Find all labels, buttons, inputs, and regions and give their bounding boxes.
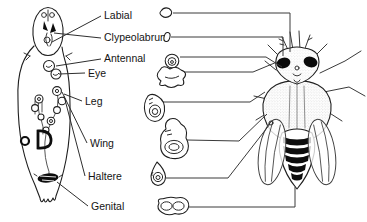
connector-clypeolabrum (171, 37, 283, 56)
label-eye: Eye (88, 67, 106, 79)
label-labial: Labial (104, 9, 132, 21)
eye-antennal-disc-icon (157, 54, 185, 87)
genital-disc-icon (158, 197, 189, 215)
label-antennal: Antennal (104, 52, 145, 64)
connector-eye (183, 62, 277, 72)
label-clypeolabrum: Clypeolabrum (104, 31, 169, 43)
haltere-disc-icon (151, 162, 166, 186)
label-wing: Wing (90, 137, 114, 149)
imaginal-disc-figure: Labial Clypeolabrum Antennal Eye Leg Win… (0, 0, 367, 222)
figure-canvas: Labial Clypeolabrum Antennal Eye Leg Win… (0, 0, 367, 222)
adult-fly-illustration (254, 31, 365, 189)
connector-genital (189, 187, 295, 207)
label-haltere: Haltere (88, 170, 122, 182)
leg-disc-icon (144, 94, 164, 121)
label-leg: Leg (85, 95, 103, 107)
label-genital: Genital (91, 200, 124, 212)
connector-leg (163, 92, 265, 102)
connector-labial (173, 13, 290, 52)
leader-genital (57, 182, 88, 206)
wing-disc-icon (161, 119, 189, 159)
labial-disc-icon (160, 8, 172, 18)
connector-wing (187, 114, 267, 141)
larva-illustration (18, 8, 72, 203)
